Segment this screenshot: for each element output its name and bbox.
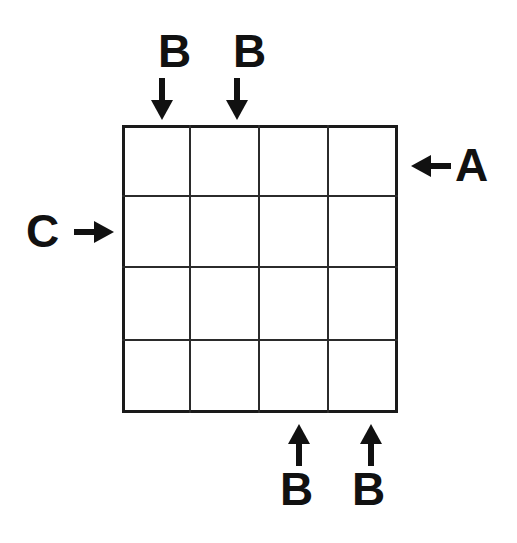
label-right-a: A: [455, 142, 488, 188]
grid-figure: [122, 125, 398, 413]
arrow-left-icon: [411, 155, 451, 177]
grid-line-horizontal-2: [122, 266, 398, 268]
label-bottom-left-b: B: [280, 466, 313, 512]
grid-outer-border: [122, 125, 398, 413]
label-top-left-b: B: [158, 28, 191, 74]
label-bottom-right-b: B: [352, 466, 385, 512]
arrow-up-icon: [360, 424, 382, 466]
label-left-c: C: [26, 208, 59, 254]
grid-line-vertical-2: [258, 125, 260, 413]
grid-line-vertical-1: [189, 125, 191, 413]
grid-line-vertical-3: [327, 125, 329, 413]
grid-line-horizontal-3: [122, 339, 398, 341]
arrow-down-icon: [151, 78, 173, 120]
arrow-down-icon: [226, 78, 248, 120]
diagram-canvas: B B A C B: [0, 0, 517, 543]
arrow-up-icon: [288, 424, 310, 466]
grid-line-horizontal-1: [122, 195, 398, 197]
label-top-right-b: B: [233, 28, 266, 74]
arrow-right-icon: [74, 221, 114, 243]
